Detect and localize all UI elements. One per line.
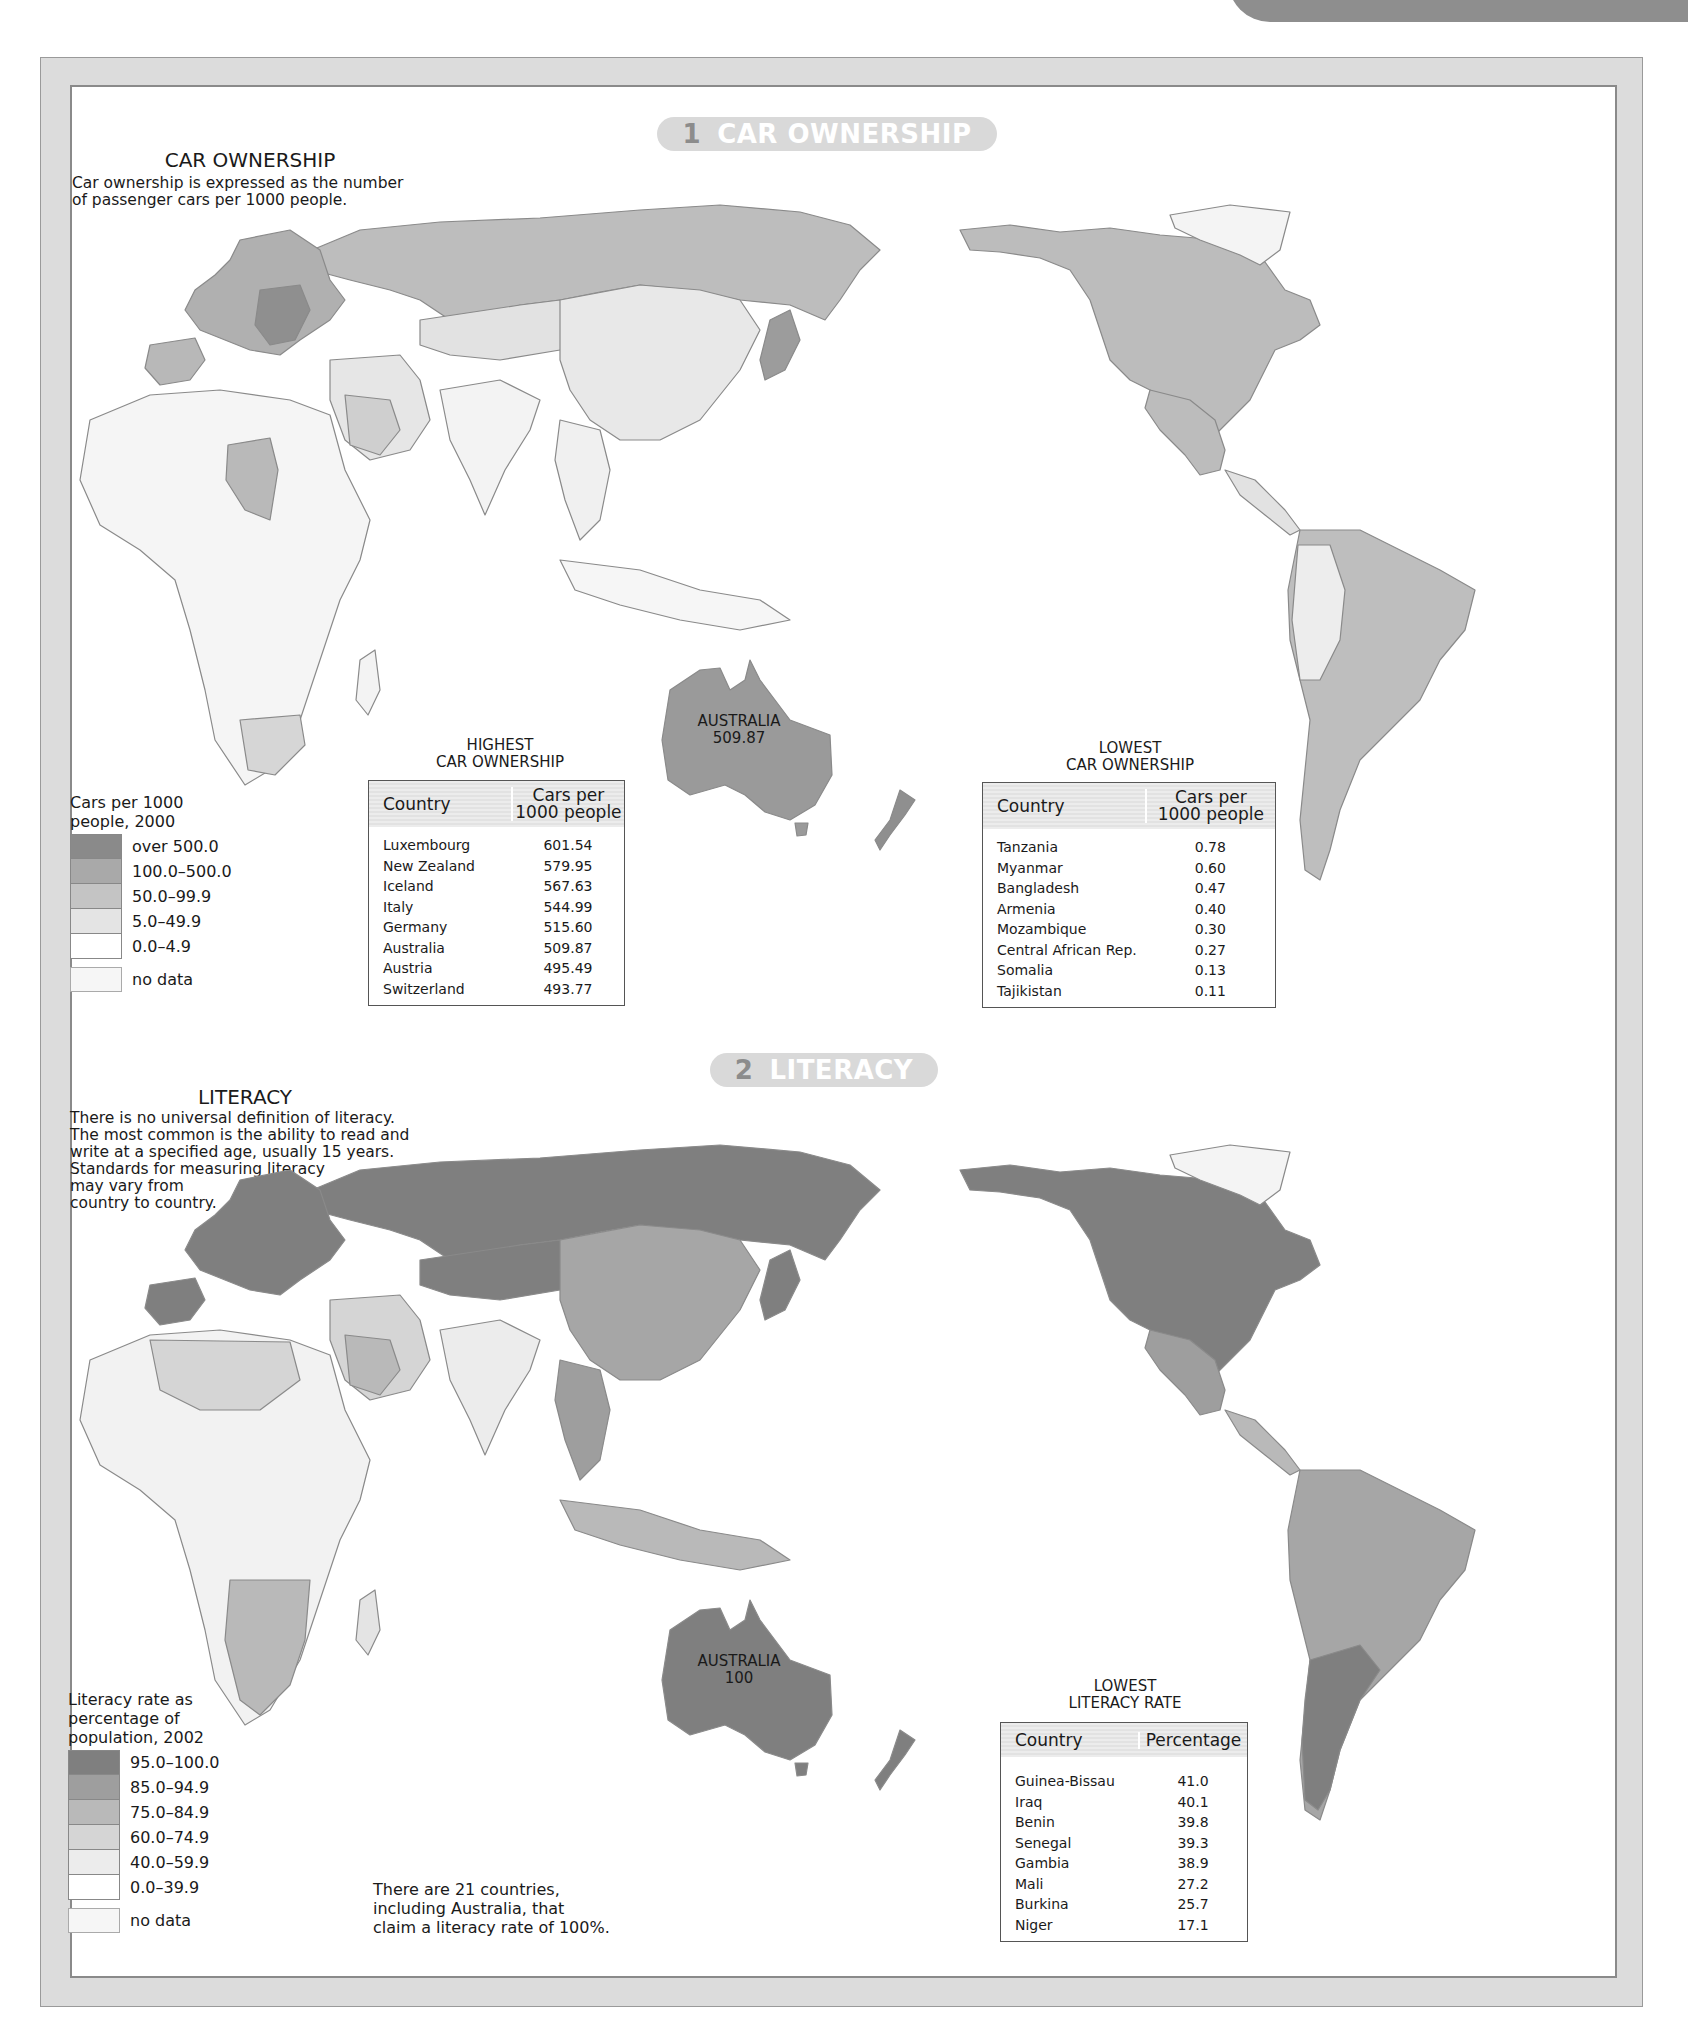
- legend-swatch: [70, 859, 122, 884]
- section-number: 2: [735, 1055, 754, 1085]
- region-africa: [80, 390, 370, 785]
- legend-item-no-data: no data: [70, 967, 232, 992]
- table-header: Country Percentage: [1001, 1723, 1247, 1757]
- legend-item: over 500.0: [70, 834, 232, 859]
- legend-item: 75.0–84.9: [68, 1800, 219, 1825]
- highest-car-ownership-caption: HIGHEST CAR OWNERSHIP: [380, 737, 620, 771]
- section-number: 1: [683, 119, 702, 149]
- legend-swatch: [68, 1825, 120, 1850]
- region-japan: [760, 1250, 800, 1320]
- region-china: [560, 1225, 760, 1380]
- region-japan: [760, 310, 800, 380]
- table-row: Mali27.2: [1001, 1874, 1247, 1895]
- table-row: Gambia38.9: [1001, 1853, 1247, 1874]
- table-row: Germany515.60: [369, 917, 624, 938]
- region-indonesia: [560, 560, 790, 630]
- column-header-country: Country: [369, 794, 511, 814]
- table-row: Australia509.87: [369, 938, 624, 959]
- table-row: New Zealand579.95: [369, 856, 624, 877]
- region-india: [440, 380, 540, 515]
- legend-swatch: [70, 967, 122, 992]
- table-header: Country Cars per 1000 people: [983, 783, 1275, 829]
- legend-swatch: [68, 1775, 120, 1800]
- legend-label: 75.0–84.9: [130, 1803, 209, 1822]
- legend-label: no data: [132, 970, 193, 989]
- legend-heading: Literacy rate as percentage of populatio…: [68, 1690, 219, 1747]
- table-row: Bangladesh0.47: [983, 878, 1275, 899]
- table-row: Guinea-Bissau41.0: [1001, 1771, 1247, 1792]
- region-central-america: [1225, 470, 1300, 535]
- legend-item: 0.0–39.9: [68, 1875, 219, 1900]
- legend-item: 60.0–74.9: [68, 1825, 219, 1850]
- table-row: Central African Rep.0.27: [983, 940, 1275, 961]
- legend-swatch: [70, 884, 122, 909]
- legend-label: 50.0–99.9: [132, 887, 211, 906]
- legend-label: 40.0–59.9: [130, 1853, 209, 1872]
- table-row: Tanzania0.78: [983, 837, 1275, 858]
- australia-map-label: AUSTRALIA 509.87: [684, 713, 794, 747]
- region-iberia: [145, 1278, 205, 1325]
- legend-label: no data: [130, 1911, 191, 1930]
- table-row: Italy544.99: [369, 897, 624, 918]
- region-south-africa: [240, 715, 305, 775]
- table-row: Iraq40.1: [1001, 1792, 1247, 1813]
- section-label: CAR OWNERSHIP: [717, 119, 971, 149]
- region-southeast-asia: [555, 420, 610, 540]
- legend-item-no-data: no data: [68, 1908, 219, 1933]
- lowest-car-ownership-table: Country Cars per 1000 people Tanzania0.7…: [982, 782, 1276, 1008]
- literacy-note: There are 21 countries, including Austra…: [373, 1880, 610, 1937]
- region-tasmania: [795, 823, 808, 836]
- australia-map-label: AUSTRALIA 100: [684, 1653, 794, 1687]
- table-row: Armenia0.40: [983, 899, 1275, 920]
- legend-item: 100.0–500.0: [70, 859, 232, 884]
- legend-swatch: [68, 1800, 120, 1825]
- legend-swatch: [70, 834, 122, 859]
- column-header-value: Percentage: [1138, 1732, 1247, 1749]
- section-banner-literacy: 2 LITERACY: [710, 1053, 938, 1087]
- table-row: Senegal39.3: [1001, 1833, 1247, 1854]
- legend-swatch: [68, 1875, 120, 1900]
- lowest-literacy-table: Country Percentage Guinea-Bissau41.0 Ira…: [1000, 1722, 1248, 1942]
- legend-swatch: [68, 1750, 120, 1775]
- region-madagascar: [356, 650, 380, 715]
- table-row: Iceland567.63: [369, 876, 624, 897]
- region-tasmania: [795, 1763, 808, 1776]
- legend-item: 50.0–99.9: [70, 884, 232, 909]
- lowest-literacy-caption: LOWEST LITERACY RATE: [1005, 1678, 1245, 1712]
- map-label-country: AUSTRALIA: [684, 713, 794, 730]
- section-banner-car-ownership: 1 CAR OWNERSHIP: [657, 117, 997, 151]
- region-new-zealand: [875, 790, 915, 850]
- literacy-title: LITERACY: [180, 1085, 310, 1109]
- car-ownership-title: CAR OWNERSHIP: [150, 148, 350, 172]
- legend-label: 5.0–49.9: [132, 912, 201, 931]
- table-row: Austria495.49: [369, 958, 624, 979]
- map-label-country: AUSTRALIA: [684, 1653, 794, 1670]
- column-header-value: Cars per 1000 people: [511, 787, 624, 821]
- legend-item: 40.0–59.9: [68, 1850, 219, 1875]
- map-label-value: 100: [684, 1670, 794, 1687]
- table-row: Somalia0.13: [983, 960, 1275, 981]
- table-row: Myanmar0.60: [983, 858, 1275, 879]
- legend-swatch: [70, 909, 122, 934]
- legend-item: 85.0–94.9: [68, 1775, 219, 1800]
- legend-label: 85.0–94.9: [130, 1778, 209, 1797]
- table-row: Benin39.8: [1001, 1812, 1247, 1833]
- legend-item: 95.0–100.0: [68, 1750, 219, 1775]
- region-indonesia: [560, 1500, 790, 1570]
- region-india: [440, 1320, 540, 1455]
- legend-heading: Cars per 1000 people, 2000: [70, 793, 232, 831]
- legend-label: 100.0–500.0: [132, 862, 232, 881]
- car-ownership-world-map: [48, 200, 1608, 890]
- page-corner-tab: [1228, 0, 1688, 22]
- legend-label: 0.0–39.9: [130, 1878, 199, 1897]
- table-row: Burkina25.7: [1001, 1894, 1247, 1915]
- table-row: Niger17.1: [1001, 1915, 1247, 1936]
- column-header-country: Country: [983, 796, 1145, 816]
- region-iberia: [145, 338, 205, 385]
- lowest-car-ownership-caption: LOWEST CAR OWNERSHIP: [1010, 740, 1250, 774]
- column-header-country: Country: [1001, 1730, 1138, 1750]
- section-label: LITERACY: [769, 1055, 913, 1085]
- legend-item: 0.0–4.9: [70, 934, 232, 959]
- legend-label: 0.0–4.9: [132, 937, 191, 956]
- region-central-america: [1225, 1410, 1300, 1475]
